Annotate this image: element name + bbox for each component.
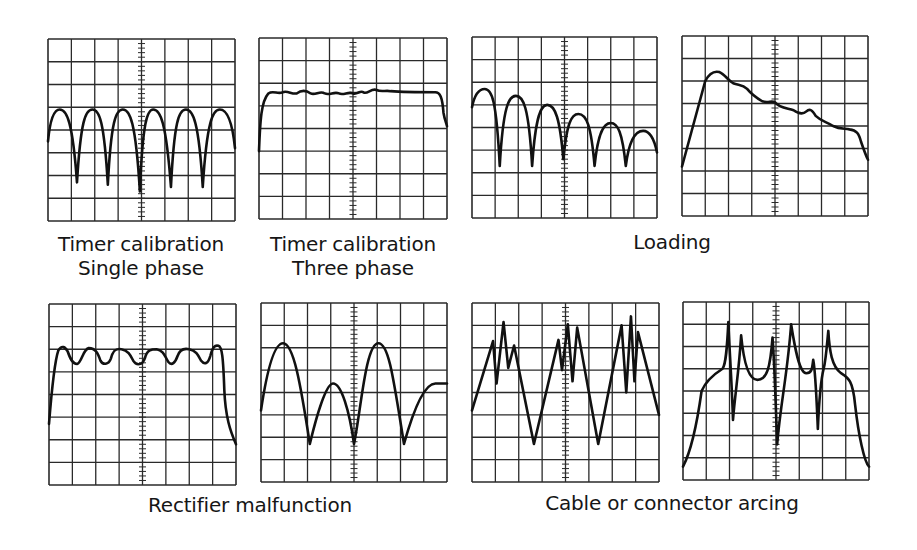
scope-panel-loading-decaying (472, 37, 657, 218)
scope-panel-arcing-resonant (683, 302, 869, 480)
scope-panel-arcing-spiky (472, 303, 659, 482)
caption-line-2: Three phase (253, 256, 453, 280)
caption-line-1: Timer calibration (41, 232, 241, 256)
scope-panel-rectifier-flat (49, 304, 236, 485)
scope-panel-timer-single-phase (48, 39, 235, 221)
scope-panel-loading-sloped (682, 36, 868, 216)
caption-loading: Loading (572, 230, 772, 254)
caption-rectifier-malfunction: Rectifier malfunction (130, 493, 370, 517)
caption-timer-single-phase: Timer calibration Single phase (41, 232, 241, 280)
caption-cable-connector-arcing: Cable or connector arcing (542, 491, 802, 515)
caption-timer-three-phase: Timer calibration Three phase (253, 232, 453, 280)
scope-panel-timer-three-phase (259, 38, 447, 219)
scope-panel-rectifier-irregular (261, 303, 447, 482)
caption-line-2: Single phase (41, 256, 241, 280)
caption-line-1: Timer calibration (253, 232, 453, 256)
